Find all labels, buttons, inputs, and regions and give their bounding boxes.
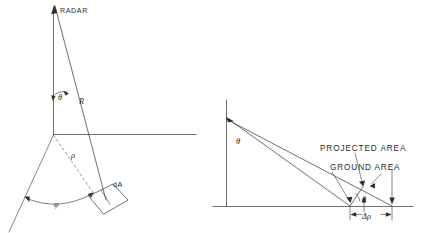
- radar-label: RADAR: [60, 6, 88, 15]
- left-panel-graphics: [9, 5, 196, 233]
- projected-area-leader-arrowhead: [359, 181, 365, 187]
- radar-geometry-figure: RADAR θ R ρ φ dA: [0, 0, 421, 233]
- delta-rho-arrowhead-left: [350, 212, 356, 217]
- far-ray-pointer: [372, 174, 382, 184]
- ground-area-leader-arrowhead: [346, 197, 352, 203]
- ground-area-leader: [332, 172, 349, 200]
- far-edge-leader-arrowhead: [389, 198, 394, 205]
- theta-label-left: θ: [58, 93, 62, 102]
- azimuth-angle-arc: [26, 194, 92, 204]
- area-element-leader: [101, 190, 110, 204]
- theta-label-right: θ: [236, 137, 240, 146]
- ground-range-label: ρ: [70, 151, 75, 160]
- azimuth-arc-arrowhead-left: [24, 196, 30, 202]
- delta-rho-label: Δρ: [361, 212, 371, 221]
- ground-range-dashed-line: [54, 135, 95, 194]
- projected-area-label: PROJECTED AREA: [320, 144, 406, 153]
- right-panel-graphics: [213, 100, 413, 220]
- delta-rho-arrowhead-right: [386, 212, 392, 217]
- radar-apex-arrowhead: [51, 5, 57, 15]
- grazing-angle-label: θ: [362, 195, 366, 204]
- far-ray-pointer-arrowhead: [370, 183, 376, 188]
- near-edge-ray: [227, 118, 350, 206]
- azimuth-reference-leg: [9, 135, 54, 232]
- figure-canvas: RADAR θ R ρ φ dA: [0, 0, 421, 233]
- azimuth-label: φ: [54, 200, 59, 209]
- slant-range-label: R: [78, 97, 84, 106]
- ground-area-label: GROUND AREA: [330, 163, 400, 172]
- area-element-label: dA: [113, 180, 123, 189]
